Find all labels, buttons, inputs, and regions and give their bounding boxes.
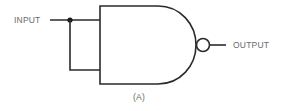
input-label: INPUT [14,16,41,25]
inversion-bubble [197,39,210,52]
output-label: OUTPUT [233,41,269,50]
figure-caption: (A) [133,93,145,102]
nand-gate-body [100,6,196,84]
tie-wire [70,20,100,70]
